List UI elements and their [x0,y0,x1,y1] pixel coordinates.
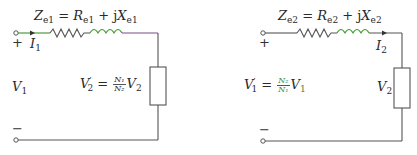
right-current-label: I2 [376,39,387,55]
right-load-impedance-icon [394,68,410,108]
left-plus-sign: + [12,36,23,49]
left-current-label: I1 [30,37,41,53]
left-source-voltage-label: V1 [12,80,27,96]
right-minus-sign: − [259,123,270,136]
inductor-icon [90,30,122,34]
current-arrow-icon [30,31,35,36]
circuit-diagram: Ze1 = Re1 + jXe1 + I1 V1 V′2 = N₁N₂V2 − … [0,0,417,155]
right-source-voltage-label: V′1 = N₂N₁V1 [244,77,306,94]
left-minus-sign: − [12,122,23,135]
right-plus-sign: + [259,36,270,49]
current-arrow-icon [382,31,387,36]
right-impedance-label: Ze2 = Re2 + jXe2 [278,9,382,25]
left-load-voltage-label: V′2 = N₁N₂V2 [80,76,142,93]
inductor-icon [337,30,369,34]
resistor-icon [297,29,337,37]
left-bottom-terminal [14,138,18,142]
right-load-voltage-label: V2 [377,80,392,96]
left-impedance-label: Ze1 = Re1 + jXe1 [34,9,138,25]
right-bottom-terminal [261,139,265,143]
resistor-icon [50,29,90,37]
left-load-impedance-icon [150,67,166,105]
